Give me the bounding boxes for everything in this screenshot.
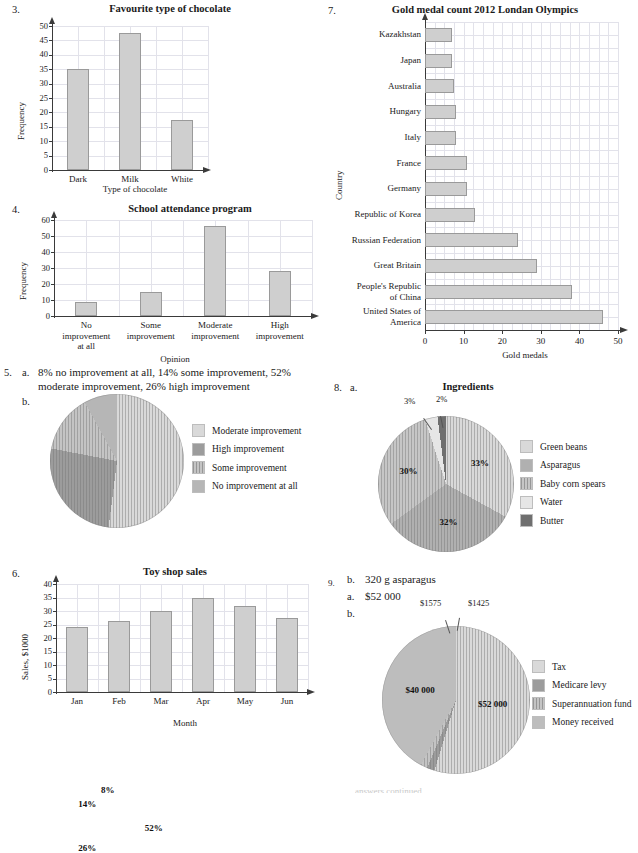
pie-slice-hatch <box>50 394 184 528</box>
chart-5b-legend: Moderate improvementHigh improvementSome… <box>192 424 327 498</box>
legend-item[interactable]: Baby corn spears <box>520 477 638 490</box>
y-tick-label: 40 <box>26 579 52 589</box>
gridline-h <box>425 73 618 74</box>
legend-label: Butter <box>540 516 564 526</box>
chart-6-x-axis-title: Month <box>110 718 260 728</box>
category-label: Jan <box>56 696 98 707</box>
legend-item[interactable]: High improvement <box>192 443 327 456</box>
y-tick-mark <box>49 40 53 41</box>
bar <box>425 285 572 299</box>
legend-item[interactable]: Medicare levy <box>532 679 638 692</box>
chart-4-y-axis-title: Frequency <box>18 262 28 300</box>
category-label: Italy <box>325 132 421 143</box>
question-8-block: 8. a. Ingredients 33%32%30%3%2% Green be… <box>320 378 638 558</box>
gridline-h <box>425 150 618 151</box>
gridline-h <box>425 61 618 62</box>
gridline-h <box>425 35 618 36</box>
question-9-part-b-label: b. <box>347 608 355 619</box>
y-tick-label: 0 <box>22 165 48 175</box>
y-tick-mark <box>49 69 53 70</box>
legend-swatch <box>192 480 205 493</box>
category-label: Japan <box>325 55 421 66</box>
question-9-part-b-top-label: b. <box>347 574 355 585</box>
question-5-number: 5. <box>4 367 12 378</box>
gridline-h <box>425 227 618 228</box>
legend-item[interactable]: Tax <box>532 660 638 673</box>
chart-7-x-axis <box>425 330 621 331</box>
x-tick-label: 50 <box>603 336 633 346</box>
gridline-v <box>140 584 141 692</box>
y-tick-mark <box>49 55 53 56</box>
y-tick-mark <box>51 268 55 269</box>
gridline-h <box>425 279 618 280</box>
question-9-part-b-top-text: 320 g asparagus <box>365 573 436 587</box>
bar <box>150 611 172 692</box>
pie-slice-label: 52% <box>134 823 174 833</box>
legend-item[interactable]: Superannuation fund <box>532 697 638 710</box>
y-tick-mark <box>49 112 53 113</box>
legend-label: Superannuation fund <box>552 699 631 709</box>
chart-4-y-axis-arrow <box>51 211 57 218</box>
legend-item[interactable]: Asparagus <box>520 459 638 472</box>
chart-8-legend: Green beansAsparagusBaby corn spearsWate… <box>520 440 638 533</box>
category-label: United States ofAmerica <box>325 306 421 328</box>
gridline-h <box>425 86 618 87</box>
y-tick-mark <box>49 26 53 27</box>
gridline-h <box>425 253 618 254</box>
bar <box>119 33 141 170</box>
gridline-h <box>425 176 618 177</box>
legend-swatch <box>520 477 533 490</box>
legend-label: Water <box>540 497 562 507</box>
legend-item[interactable]: Water <box>520 496 638 509</box>
legend-item[interactable]: Some improvement <box>192 461 327 474</box>
legend-item[interactable]: Money received <box>532 716 638 729</box>
chart-3: 05101520253035404550 DarkMilkWhite Frequ… <box>0 0 320 196</box>
category-label: Great Britain <box>325 260 421 271</box>
pie-slice-label: 33% <box>460 458 500 468</box>
gridline-h <box>425 22 618 23</box>
pie-slice-label: 30% <box>388 466 428 476</box>
bar <box>108 621 130 692</box>
y-tick-label: 25 <box>26 619 52 629</box>
pie-callout-label: 2% <box>436 394 447 404</box>
category-label: Kazakhstan <box>325 29 421 40</box>
legend-item[interactable]: Moderate improvement <box>192 424 327 437</box>
bar <box>425 182 467 196</box>
legend-item[interactable]: Butter <box>520 514 638 527</box>
legend-swatch <box>532 660 545 673</box>
chart-5b-pie <box>50 394 184 528</box>
bar <box>140 292 162 316</box>
bar <box>425 131 456 145</box>
y-tick-label: 0 <box>24 311 50 321</box>
x-tick-mark <box>464 330 465 334</box>
chart-7-x-axis-title: Gold medals <box>445 350 605 360</box>
bar <box>66 627 88 692</box>
pie-callout-label: 3% <box>404 396 415 406</box>
category-label: Someimprovement <box>119 320 184 341</box>
category-label: Highimprovement <box>248 320 313 341</box>
chart-4-x-axis-title: Opinion <box>100 354 250 364</box>
legend-swatch <box>532 697 545 710</box>
category-label: France <box>325 158 421 169</box>
gridline-v <box>104 26 105 170</box>
question-6-block: 6. Toy shop sales 0510152025303540 JanFe… <box>0 556 330 746</box>
legend-label: Money received <box>552 717 613 727</box>
y-tick-label: 30 <box>22 78 48 88</box>
chart-6: 0510152025303540 JanFebMarAprMayJun Sale… <box>0 556 330 746</box>
bar <box>425 79 454 93</box>
legend-item[interactable]: No improvement at all <box>192 480 327 493</box>
y-tick-mark <box>53 598 57 599</box>
gridline-h <box>425 125 618 126</box>
bar <box>204 226 226 316</box>
y-tick-label: 60 <box>24 215 50 225</box>
category-label: Republic of Korea <box>325 209 421 220</box>
question-9-number: 9. <box>328 578 335 588</box>
y-tick-mark <box>53 625 57 626</box>
bottom-cut-text: answers continued <box>355 786 635 793</box>
question-7-block: 7. Gold medal count 2012 Londan Olympics… <box>320 0 638 370</box>
bar <box>425 156 467 170</box>
legend-swatch <box>520 496 533 509</box>
legend-item[interactable]: Green beans <box>520 440 638 453</box>
bar <box>425 105 456 119</box>
bar <box>192 598 214 693</box>
